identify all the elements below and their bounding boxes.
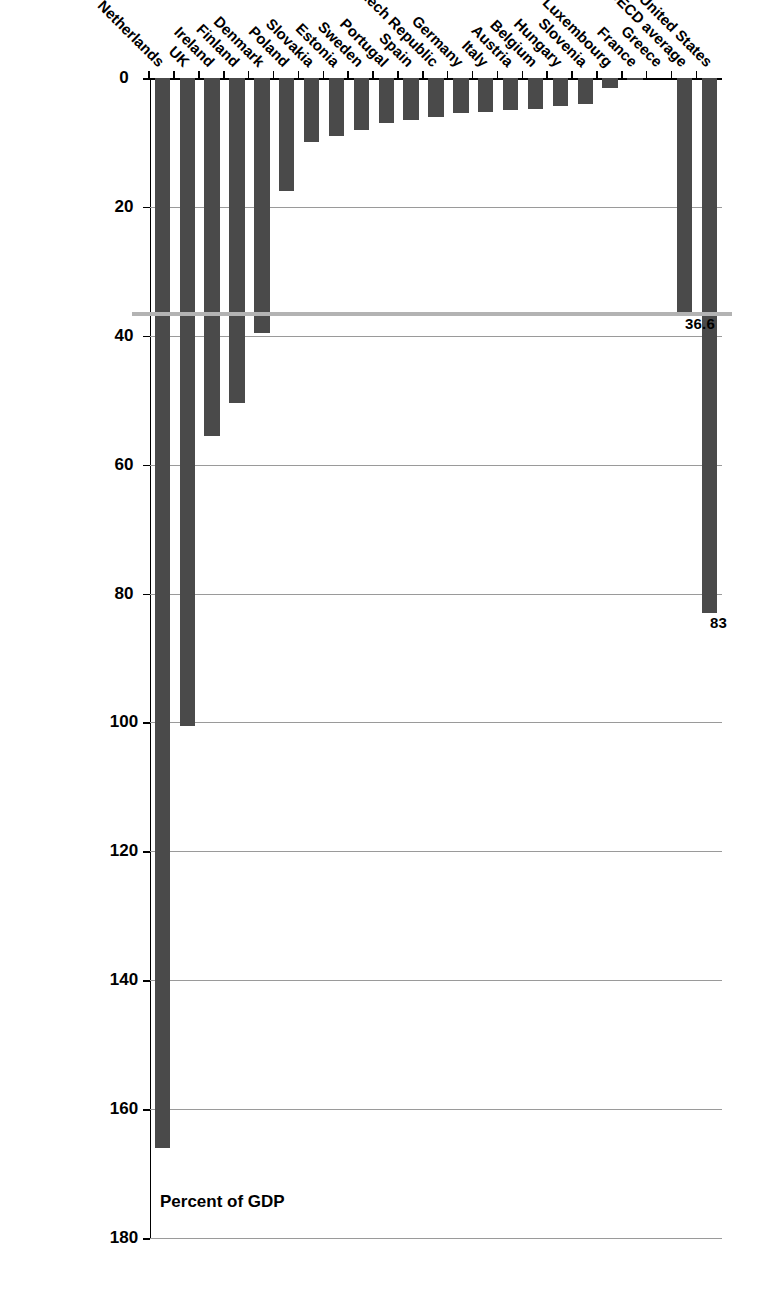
bar <box>578 78 593 104</box>
bar <box>453 78 468 113</box>
value-tick <box>143 465 150 467</box>
gridline <box>150 980 722 981</box>
category-tick <box>273 71 275 78</box>
reference-line <box>132 312 732 316</box>
category-tick <box>298 71 300 78</box>
bar <box>229 78 244 403</box>
bar <box>304 78 319 142</box>
value-tick <box>143 1238 150 1240</box>
category-tick <box>149 71 151 78</box>
category-tick <box>546 71 548 78</box>
value-tick-label: 60 <box>115 455 134 475</box>
category-tick <box>347 71 349 78</box>
gridline <box>150 1109 722 1110</box>
category-tick <box>447 71 449 78</box>
bar <box>254 78 269 333</box>
value-tick <box>143 594 150 596</box>
bar <box>354 78 369 130</box>
category-tick <box>372 71 374 78</box>
bar <box>329 78 344 136</box>
plot-area: 36.683 <box>150 78 722 1238</box>
category-tick <box>323 71 325 78</box>
category-tick <box>422 71 424 78</box>
value-tick-label: 180 <box>110 1228 138 1248</box>
category-label: Netherlands <box>95 0 168 70</box>
bar <box>403 78 418 120</box>
category-tick <box>596 71 598 78</box>
bar <box>602 78 617 88</box>
bar <box>503 78 518 110</box>
bar <box>155 78 170 1148</box>
value-tick-label: 160 <box>110 1099 138 1119</box>
bar <box>279 78 294 191</box>
gridline <box>150 465 722 466</box>
value-tick <box>143 851 150 853</box>
category-tick <box>621 71 623 78</box>
value-axis-title: Percent of GDP <box>160 1192 285 1212</box>
category-tick <box>223 71 225 78</box>
category-tick <box>497 71 499 78</box>
value-tick-label: 120 <box>110 841 138 861</box>
gridline <box>150 851 722 852</box>
chart-canvas: 36.683 020406080100120140160180 Netherla… <box>0 0 770 1310</box>
value-tick-label: 0 <box>119 68 128 88</box>
value-tick-label: 80 <box>115 584 134 604</box>
value-tick <box>143 980 150 982</box>
category-tick <box>173 71 175 78</box>
bar <box>627 78 642 80</box>
bar <box>677 78 692 314</box>
value-tick <box>143 207 150 209</box>
category-tick <box>696 71 698 78</box>
category-tick <box>671 71 673 78</box>
value-tick <box>143 1109 150 1111</box>
value-tick <box>143 78 150 80</box>
category-tick <box>472 71 474 78</box>
chart-figure: 36.683 020406080100120140160180 Netherla… <box>0 0 770 1310</box>
value-tick-label: 20 <box>115 197 134 217</box>
bar-value-label: 36.6 <box>685 314 715 331</box>
gridline <box>150 722 722 723</box>
bar <box>204 78 219 436</box>
category-tick <box>571 71 573 78</box>
bar <box>379 78 394 123</box>
value-tick-label: 40 <box>115 326 134 346</box>
bar <box>528 78 543 109</box>
value-tick-label: 140 <box>110 970 138 990</box>
category-tick <box>397 71 399 78</box>
bar-value-label: 83 <box>710 613 727 630</box>
bar <box>478 78 493 112</box>
category-axis-line <box>150 78 152 1238</box>
category-tick <box>522 71 524 78</box>
category-tick <box>646 71 648 78</box>
value-tick <box>143 336 150 338</box>
bar <box>180 78 195 726</box>
value-tick-label: 100 <box>110 712 138 732</box>
gridline <box>150 1238 722 1239</box>
bar <box>553 78 568 106</box>
bar <box>428 78 443 117</box>
value-tick <box>143 722 150 724</box>
bar <box>702 78 717 613</box>
category-tick <box>198 71 200 78</box>
gridline <box>150 594 722 595</box>
category-tick <box>248 71 250 78</box>
